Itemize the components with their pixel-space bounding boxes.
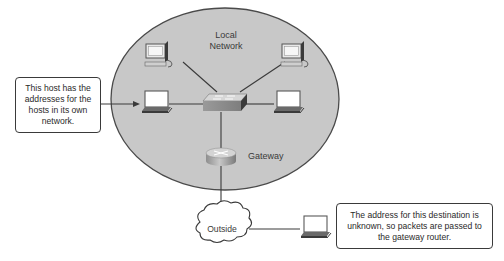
local-network-label-line2: Network xyxy=(204,41,248,52)
outside-label: Outside xyxy=(202,224,242,235)
right-callout: The address for this destination is unkn… xyxy=(336,203,493,249)
local-network-label: Local Network xyxy=(204,30,248,52)
laptop-icon xyxy=(301,216,331,238)
switch-icon xyxy=(203,94,247,111)
left-callout: This host has the addresses for the host… xyxy=(15,77,101,133)
laptop-icon xyxy=(274,91,304,113)
cloud-icon xyxy=(196,201,252,243)
local-network-label-line1: Local xyxy=(204,30,248,41)
router-icon xyxy=(206,148,236,166)
laptop-icon xyxy=(142,91,172,113)
gateway-label: Gateway xyxy=(248,151,292,162)
